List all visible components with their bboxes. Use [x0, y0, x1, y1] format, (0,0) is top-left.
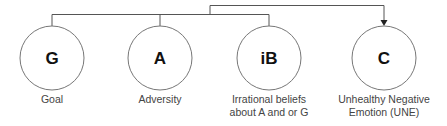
node-letter: G [45, 49, 58, 68]
node-label: Adversity [138, 93, 182, 105]
node-adversity: A Adversity [128, 26, 192, 105]
node-letter: A [154, 49, 166, 68]
connector-lines [52, 6, 388, 27]
node-label-line-2: about A and or G [230, 106, 309, 118]
node-label-line-1: Irrational beliefs [232, 93, 306, 105]
node-irrational-beliefs: iB Irrational beliefs about A and or G [230, 26, 309, 118]
node-label-line-1: Unhealthy Negative [338, 93, 430, 105]
node-letter: iB [261, 49, 278, 68]
node-consequence: C Unhealthy Negative Emotion (UNE) [338, 26, 430, 118]
node-goal: G Goal [20, 26, 84, 105]
arrow-head-icon [381, 20, 388, 26]
node-letter: C [378, 49, 390, 68]
node-label-line-2: Emotion (UNE) [349, 106, 420, 118]
node-label: Goal [41, 93, 63, 105]
abc-model-diagram: G Goal A Adversity iB Irrational beliefs… [0, 0, 447, 126]
